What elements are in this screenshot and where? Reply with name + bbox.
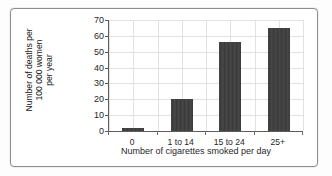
bar[interactable] — [219, 42, 241, 131]
x-tick-mark — [205, 131, 206, 135]
gridline — [303, 20, 304, 131]
y-tick-label: 0 — [86, 127, 104, 136]
x-tick-mark — [157, 131, 158, 135]
x-axis-title: Number of cigarettes smoked per day — [86, 146, 306, 156]
x-tick-mark — [108, 131, 109, 135]
x-tick-mark — [302, 131, 303, 135]
y-axis-title-line-3: per year — [45, 54, 55, 86]
y-tick-label: 70 — [86, 16, 104, 25]
y-tick-label: 60 — [86, 31, 104, 40]
y-tick-label: 10 — [86, 111, 104, 120]
bar-chart-figure: Number of deaths per 100 000 women per y… — [0, 0, 332, 176]
bar-slot — [255, 20, 304, 131]
x-tick-mark — [254, 131, 255, 135]
bar[interactable] — [171, 99, 193, 132]
plot-area — [108, 20, 303, 132]
plot-wrapper: 010203040506070 01 to 1415 to 2425+ — [86, 20, 306, 138]
y-axis-title: Number of deaths per 100 000 women per y… — [20, 14, 60, 126]
bar-slot — [206, 20, 255, 131]
y-tick-label: 30 — [86, 79, 104, 88]
y-tick-label: 50 — [86, 47, 104, 56]
y-tick-label: 40 — [86, 63, 104, 72]
bar-slot — [158, 20, 207, 131]
bar-series — [109, 20, 303, 131]
y-axis-tick-labels: 010203040506070 — [86, 20, 104, 131]
bar[interactable] — [268, 28, 290, 131]
y-tick-label: 20 — [86, 95, 104, 104]
bar-slot — [109, 20, 158, 131]
